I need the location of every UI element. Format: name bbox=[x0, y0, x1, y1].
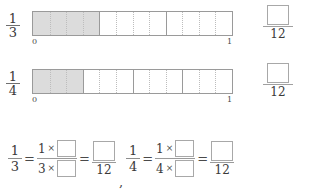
equation-1-result-fraction: 12 bbox=[92, 140, 116, 177]
minor-divider bbox=[199, 70, 200, 93]
answer-fraction-2: 12 bbox=[263, 62, 293, 99]
equation-1-result-box[interactable] bbox=[93, 141, 115, 161]
equation-2-result-box[interactable] bbox=[211, 141, 233, 161]
equation-1-left-numerator: 1 bbox=[9, 143, 21, 158]
equation-2-middle-fraction: 1 × 4 × bbox=[155, 139, 195, 178]
bar-1-start-label: 0 bbox=[32, 37, 37, 46]
major-divider bbox=[99, 12, 100, 35]
equation-2-denominator-expression: 4 × bbox=[155, 159, 195, 178]
equation-2-left-denominator: 4 bbox=[127, 159, 139, 174]
equation-2: 1 4 = 1 × 4 × = bbox=[126, 139, 234, 178]
equation-2-numerator-box[interactable] bbox=[175, 140, 194, 157]
number-bar-2-wrapper: 0 1 bbox=[32, 69, 233, 94]
row-label-fraction-2: 1 4 bbox=[6, 70, 20, 97]
equation-2-left-numerator: 1 bbox=[127, 143, 139, 158]
equation-row: 1 3 = 1 × 3 × = bbox=[0, 122, 313, 195]
answer-denominator-2: 12 bbox=[268, 85, 287, 99]
equation-2-num-factor: 1 bbox=[156, 143, 164, 155]
answer-box-1-numerator bbox=[265, 4, 291, 26]
equation-2-den-factor: 4 bbox=[156, 163, 164, 175]
number-bar-1-wrapper: 0 1 bbox=[32, 11, 233, 36]
minor-divider bbox=[116, 70, 117, 93]
minor-divider bbox=[99, 70, 100, 93]
answer-fraction-1: 12 bbox=[263, 4, 293, 41]
equation-1: 1 3 = 1 × 3 × = bbox=[8, 139, 116, 178]
equation-1-den-factor: 3 bbox=[38, 163, 46, 175]
equation-2-result-fraction: 12 bbox=[210, 140, 234, 177]
minor-divider bbox=[166, 70, 167, 93]
minor-divider bbox=[116, 12, 117, 35]
row-label-numerator-2: 1 bbox=[7, 70, 19, 83]
minor-divider bbox=[50, 70, 51, 93]
minor-divider bbox=[199, 12, 200, 35]
minor-divider bbox=[50, 12, 51, 35]
row-label-denominator-1: 3 bbox=[7, 26, 19, 39]
equation-1-numerator-expression: 1 × bbox=[37, 139, 77, 158]
equation-1-numerator-box[interactable] bbox=[57, 140, 76, 157]
minor-divider bbox=[215, 70, 216, 93]
equation-2-left-fraction: 1 4 bbox=[126, 143, 140, 174]
equation-1-equals-2: = bbox=[77, 151, 92, 166]
fraction-worksheet: 1 3 0 1 12 1 4 0 1 12 1 bbox=[0, 0, 313, 195]
equation-1-denominator-expression: 3 × bbox=[37, 159, 77, 178]
equation-2-result-denominator: 12 bbox=[214, 163, 231, 177]
answer-box-2[interactable] bbox=[267, 63, 289, 83]
answer-denominator-1: 12 bbox=[268, 27, 287, 41]
minor-divider bbox=[66, 70, 67, 93]
number-bar-2[interactable] bbox=[32, 69, 233, 94]
equation-2-numerator-expression: 1 × bbox=[155, 139, 195, 158]
answer-box-1[interactable] bbox=[267, 5, 289, 25]
major-divider bbox=[166, 12, 167, 35]
equation-1-result-denominator: 12 bbox=[95, 163, 112, 177]
bar-2-start-label: 0 bbox=[32, 95, 37, 104]
minor-divider bbox=[182, 12, 183, 35]
equation-1-denominator-box[interactable] bbox=[57, 160, 76, 177]
minor-divider bbox=[66, 12, 67, 35]
equation-2-equals-1: = bbox=[140, 151, 155, 166]
equation-1-left-fraction: 1 3 bbox=[8, 143, 22, 174]
row-label-denominator-2: 4 bbox=[7, 84, 19, 97]
multiply-icon-2a: × bbox=[164, 144, 176, 153]
equation-2-equals-2: = bbox=[195, 151, 210, 166]
answer-box-2-numerator bbox=[265, 62, 291, 84]
minor-divider bbox=[149, 70, 150, 93]
major-divider bbox=[83, 70, 84, 93]
major-divider bbox=[182, 70, 183, 93]
minor-divider bbox=[149, 12, 150, 35]
multiply-icon-1a: × bbox=[46, 144, 58, 153]
equation-1-num-factor: 1 bbox=[38, 143, 46, 155]
minor-divider bbox=[215, 12, 216, 35]
minor-divider bbox=[83, 12, 84, 35]
equation-1-middle-fraction: 1 × 3 × bbox=[37, 139, 77, 178]
bar-1-end-label: 1 bbox=[227, 37, 232, 46]
equation-2-denominator-box[interactable] bbox=[175, 160, 194, 177]
row-label-fraction-1: 1 3 bbox=[6, 12, 20, 39]
multiply-icon-2b: × bbox=[164, 164, 176, 173]
number-bar-1[interactable] bbox=[32, 11, 233, 36]
shaded-region bbox=[33, 70, 83, 93]
bar-2-end-label: 1 bbox=[227, 95, 232, 104]
row-label-numerator-1: 1 bbox=[7, 12, 19, 25]
equation-1-equals-1: = bbox=[22, 151, 37, 166]
major-divider bbox=[133, 70, 134, 93]
equation-1-result-numerator bbox=[92, 140, 116, 162]
multiply-icon-1b: × bbox=[46, 164, 58, 173]
minor-divider bbox=[133, 12, 134, 35]
equation-separator-comma: , bbox=[116, 174, 126, 189]
equation-2-result-numerator bbox=[210, 140, 234, 162]
equation-1-left-denominator: 3 bbox=[9, 159, 21, 174]
